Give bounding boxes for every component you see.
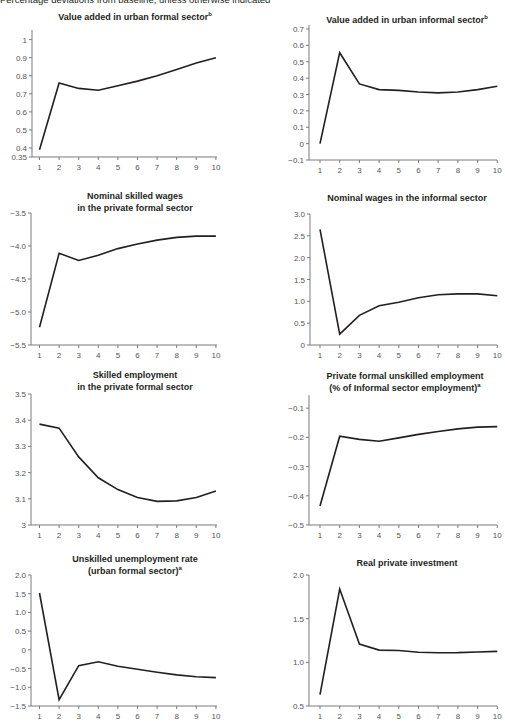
x-tick-label: 1 [318,531,323,540]
x-tick-label: 9 [475,166,480,175]
x-tick-label: 3 [76,351,81,360]
y-tick-label: 0.5 [293,58,305,67]
x-tick-label: 4 [96,351,101,360]
x-tick-label: 1 [318,166,323,175]
y-tick-label: 3.3 [15,442,27,451]
x-tick-label: 9 [194,712,199,721]
y-tick-label: 0.5 [294,319,306,328]
y-tick-label: 1.0 [15,608,27,617]
y-tick-label: 1.0 [294,297,306,306]
x-tick-label: 10 [493,531,502,540]
x-tick-label: 8 [456,166,461,175]
x-tick-label: 10 [493,351,502,360]
x-tick-label: 5 [397,351,402,360]
x-tick-label: 7 [155,531,160,540]
x-tick-label: 10 [211,163,220,172]
y-tick-label: 3.5 [15,390,27,399]
x-tick-label: 1 [37,712,42,721]
y-tick-label: 0.5 [15,627,27,636]
x-tick-label: 3 [357,166,362,175]
x-tick-label: 3 [357,351,362,360]
x-tick-label: 8 [174,712,179,721]
y-tick-label: 0.8 [16,72,28,81]
series-line [320,229,497,334]
y-tick-label: 0 [22,646,27,655]
x-tick-label: 8 [456,531,461,540]
y-tick-label: −0.5 [10,665,26,674]
x-tick-label: 4 [377,531,382,540]
y-tick-label: 0.6 [16,108,28,117]
y-tick-label: −1.0 [10,683,26,692]
x-tick-label: 2 [337,166,342,175]
x-tick-label: 4 [96,531,101,540]
chart-nominal-wages-informal: 00.51.01.52.02.53.012345678910 [294,210,502,360]
series-line [40,236,216,327]
x-tick-label: 3 [357,712,362,721]
x-tick-label: 5 [116,351,121,360]
x-tick-label: 6 [135,531,140,540]
series-line [320,53,497,144]
x-tick-label: 10 [211,531,220,540]
y-tick-label: 0 [300,140,305,149]
y-tick-label: 0.35 [11,153,27,162]
y-tick-label: 1 [23,36,28,45]
y-tick-label: 2.0 [294,254,306,263]
y-tick-label: 0.7 [16,90,28,99]
y-tick-label: −0.1 [288,404,304,413]
x-tick-label: 4 [377,351,382,360]
y-tick-label: 2.0 [293,571,305,580]
x-tick-label: 1 [318,712,323,721]
y-tick-label: 0 [301,341,306,350]
x-tick-label: 2 [57,351,62,360]
chart-nominal-skilled-wages: −5.5−5.0−4.5−4.0−3.512345678910 [10,209,221,360]
x-tick-label: 8 [456,351,461,360]
x-tick-label: 2 [57,163,62,172]
y-tick-label: 2.5 [294,232,306,241]
y-tick-label: 0.5 [16,126,28,135]
chart-value-added-informal: −0.100.10.20.30.40.50.60.712345678910 [288,25,502,175]
y-tick-label: −3.5 [10,209,26,218]
x-tick-label: 5 [397,531,402,540]
x-tick-label: 7 [436,351,441,360]
x-tick-label: 9 [475,712,480,721]
x-tick-label: 5 [397,712,402,721]
x-tick-label: 9 [194,531,199,540]
y-tick-label: 1.5 [293,615,305,624]
y-tick-label: 0.3 [293,91,305,100]
x-tick-label: 10 [493,712,502,721]
x-tick-label: 3 [76,531,81,540]
x-tick-label: 7 [155,163,160,172]
y-tick-label: 3.4 [15,416,27,425]
chart-real-private-investment: 0.51.01.52.012345678910 [293,571,502,721]
y-tick-label: −1.5 [10,702,26,711]
chart-value-added-formal: 0.350.40.50.60.70.80.9112345678910 [11,30,220,172]
x-tick-label: 1 [318,351,323,360]
x-tick-label: 2 [57,712,62,721]
x-tick-label: 10 [211,351,220,360]
x-tick-label: 10 [211,712,220,721]
x-tick-label: 3 [357,531,362,540]
y-tick-label: 3.2 [15,469,27,478]
series-line [320,589,497,695]
x-tick-label: 3 [76,712,81,721]
y-tick-label: −5.5 [10,341,26,350]
y-tick-label: 1.5 [15,590,27,599]
y-tick-label: −0.5 [288,521,304,530]
x-tick-label: 4 [96,712,101,721]
x-tick-label: 7 [155,712,160,721]
x-tick-label: 4 [96,163,101,172]
x-tick-label: 7 [436,531,441,540]
x-tick-label: 6 [135,351,140,360]
y-tick-label: −0.4 [288,492,304,501]
x-tick-label: 1 [37,351,42,360]
y-tick-label: 0.7 [293,25,305,34]
x-tick-label: 1 [37,531,42,540]
x-tick-label: 6 [416,351,421,360]
y-tick-label: 0.9 [16,54,28,63]
y-tick-label: −0.3 [288,463,304,472]
x-tick-label: 9 [475,351,480,360]
y-tick-label: −0.1 [288,156,304,165]
x-tick-label: 5 [116,712,121,721]
y-tick-label: 3.0 [294,210,306,219]
y-tick-label: 3.1 [15,495,27,504]
